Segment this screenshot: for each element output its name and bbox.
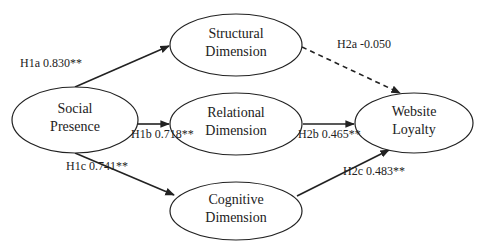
node-relational: RelationalDimension xyxy=(170,93,302,155)
node-social-label-line-2: Presence xyxy=(50,119,100,134)
edge-label-h1b: H1b 0.718** xyxy=(131,127,194,141)
edge-label-h1a: H1a 0.830** xyxy=(20,56,82,70)
edge-label-h2b: H2b 0.465** xyxy=(298,127,361,141)
nodes-layer: SocialPresenceStructuralDimensionRelatio… xyxy=(12,14,473,240)
node-loyalty: WebsiteLoyalty xyxy=(355,93,473,153)
node-loyalty-label-line-2: Loyalty xyxy=(392,122,436,137)
node-social-label-line-1: Social xyxy=(58,101,93,116)
edge-h2a-arrow xyxy=(302,47,400,93)
node-cognitive: CognitiveDimension xyxy=(170,182,302,240)
node-cognitive-label-line-1: Cognitive xyxy=(208,192,263,207)
node-loyalty-label-line-1: Website xyxy=(392,104,437,119)
node-cognitive-label-line-2: Dimension xyxy=(205,210,266,225)
edge-h1a-arrow xyxy=(75,46,169,87)
node-structural: StructuralDimension xyxy=(170,14,302,76)
edge-label-h1c: H1c 0.741** xyxy=(66,159,128,173)
edge-label-h2a: H2a -0.050 xyxy=(337,37,391,51)
node-relational-label-line-1: Relational xyxy=(207,105,265,120)
path-model-diagram: SocialPresenceStructuralDimensionRelatio… xyxy=(0,0,484,248)
node-structural-label-line-1: Structural xyxy=(208,26,263,41)
node-structural-label-line-2: Dimension xyxy=(205,44,266,59)
edge-label-h2c: H2c 0.483** xyxy=(343,164,405,178)
node-social: SocialPresence xyxy=(12,87,138,153)
node-relational-label-line-2: Dimension xyxy=(205,123,266,138)
